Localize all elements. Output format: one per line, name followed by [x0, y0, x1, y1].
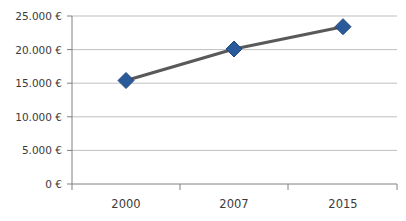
line-chart: Grafik: [0, 0, 406, 221]
y-axis-label-15000: 15.000 €: [15, 77, 62, 89]
y-axis-label-5000: 5.000 €: [22, 144, 62, 156]
chart-plot-area: 25.000 € 20.000 € 15.000 € 10.000 € 5.00…: [0, 0, 406, 221]
x-axis-label-2007: 2007: [219, 197, 248, 211]
x-axis-label-2000: 2000: [111, 197, 140, 211]
y-axis-ticks: [67, 16, 72, 184]
y-axis-labels: 25.000 € 20.000 € 15.000 € 10.000 € 5.00…: [15, 10, 62, 190]
y-axis-label-20000: 20.000 €: [15, 44, 62, 56]
y-axis-label-0: 0 €: [45, 178, 62, 190]
x-axis-label-2015: 2015: [328, 197, 357, 211]
y-axis-label-25000: 25.000 €: [15, 10, 62, 22]
y-axis-label-10000: 10.000 €: [15, 111, 62, 123]
x-axis-labels: 2000 2007 2015: [111, 197, 357, 211]
x-axis-ticks: [72, 184, 397, 190]
